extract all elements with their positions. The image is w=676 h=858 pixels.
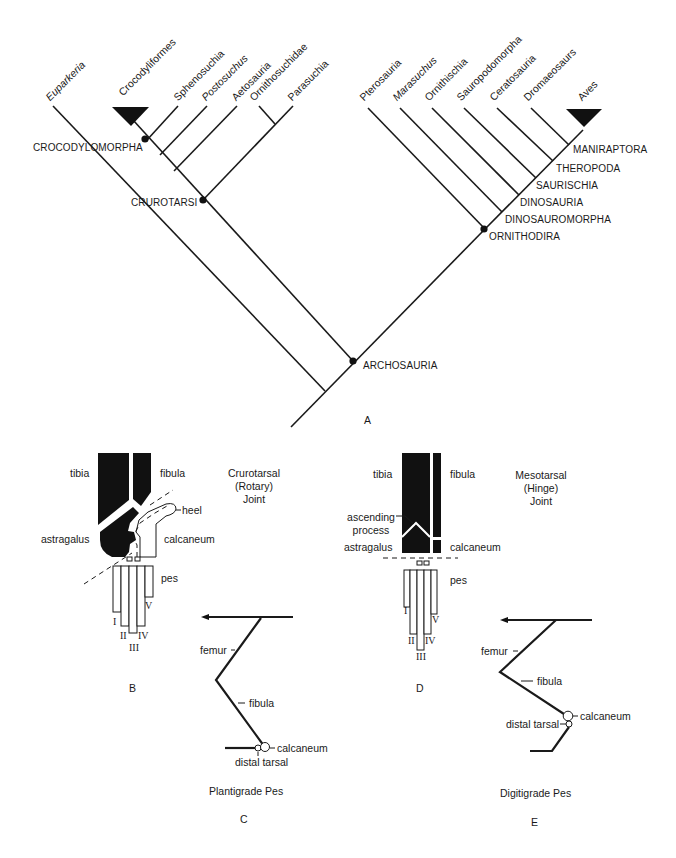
- digit-iii-d: III: [416, 652, 426, 662]
- plantigrade-limb-drawing: [201, 614, 293, 756]
- mesotarsal-ankle-drawing: [383, 453, 458, 650]
- caption-plantigrade-pes: Plantigrade Pes: [209, 786, 283, 797]
- node-archosauria: [349, 357, 356, 364]
- metatarsal-v-d: [431, 570, 437, 614]
- crurotarsal-joint-title: Crurotarsal (Rotary) Joint: [219, 467, 289, 506]
- node-ornithodira: [480, 225, 487, 232]
- clade-archosauria: ARCHOSAURIA: [363, 361, 437, 371]
- calcaneum-bone-d: [433, 540, 441, 553]
- digit-ii-d: II: [408, 636, 415, 646]
- panel-letter-d: D: [416, 683, 424, 694]
- panel-letter-a: A: [364, 415, 371, 426]
- label-fibula-d: fibula: [450, 469, 475, 480]
- digit-iii-b: III: [129, 643, 139, 653]
- label-astragalus-d: astragalus: [344, 542, 392, 553]
- metatarsal-i-d: [404, 570, 410, 607]
- node-crurotarsi: [199, 196, 206, 203]
- digit-iv-b: IV: [138, 631, 149, 641]
- digit-i-d: I: [404, 606, 407, 616]
- metatarsal-v-b: [145, 566, 153, 597]
- label-fibula-e: fibula: [537, 676, 562, 687]
- label-pes-b: pes: [161, 573, 178, 584]
- fibula-bone-d: [433, 453, 441, 537]
- clade-maniraptora: MANIRAPTORA: [573, 145, 647, 155]
- label-tibia-d: tibia: [373, 469, 392, 480]
- clade-theropoda: THEROPODA: [556, 164, 620, 174]
- label-astragalus-b: astragalus: [41, 534, 89, 545]
- label-ascending-process: ascending process: [342, 511, 400, 537]
- label-tibia-b: tibia: [70, 468, 89, 479]
- digit-v-b: V: [145, 601, 152, 611]
- label-fibula-b: fibula: [160, 468, 185, 479]
- label-femur-e: femur: [481, 646, 508, 657]
- clade-crurotarsi: CRUROTARSI: [131, 198, 197, 208]
- digit-v-d: V: [432, 615, 439, 625]
- aves-triangle: [566, 109, 602, 127]
- digit-iv-d: IV: [425, 636, 436, 646]
- label-calcaneum-b: calcaneum: [164, 534, 215, 545]
- metatarsal-iii-d: [417, 570, 424, 650]
- metatarsal-iii-b: [129, 566, 137, 633]
- metatarsal-i-b: [113, 566, 121, 612]
- digit-i-b: I: [113, 617, 116, 627]
- clade-ornithodira: ORNITHODIRA: [489, 232, 560, 242]
- label-heel: heel: [182, 505, 202, 516]
- cladogram-branches: [53, 106, 583, 427]
- label-pes-d: pes: [450, 575, 467, 586]
- clade-dinosauria: DINOSAURIA: [520, 198, 583, 208]
- label-distal-tarsal-c: distal tarsal: [235, 757, 288, 768]
- cladogram-svg: [0, 0, 676, 858]
- tibia-bone-d: [402, 453, 430, 553]
- caption-digitigrade-pes: Digitigrade Pes: [500, 788, 571, 799]
- calcaneum-bone-b: [136, 504, 176, 557]
- metatarsal-ii-b: [121, 566, 129, 626]
- clade-dinosauromorpha: DINOSAUROMORPHA: [505, 215, 611, 225]
- label-calcaneum-d: calcaneum: [450, 542, 501, 553]
- panel-letter-b: B: [129, 683, 136, 694]
- label-fibula-c: fibula: [249, 698, 274, 709]
- fibula-bone-b: [133, 453, 151, 506]
- crocodyliformes-triangle: [112, 107, 149, 126]
- panel-letter-e: E: [531, 817, 538, 828]
- mesotarsal-joint-title: Mesotarsal (Hinge) Joint: [506, 469, 576, 508]
- metatarsal-iv-d: [424, 570, 431, 634]
- clade-crocodylomorpha: CROCODYLOMORPHA: [33, 143, 143, 153]
- metatarsal-iv-b: [137, 566, 145, 626]
- label-calcaneum-c: calcaneum: [277, 743, 328, 754]
- label-femur-c: femur: [200, 645, 227, 656]
- clade-saurischia: SAURISCHIA: [536, 181, 598, 191]
- label-distal-tarsal-e: distal tarsal: [506, 719, 559, 730]
- metatarsal-ii-d: [410, 570, 417, 634]
- panel-letter-c: C: [240, 814, 248, 825]
- label-calcaneum-e: calcaneum: [580, 711, 631, 722]
- digit-ii-b: II: [120, 631, 127, 641]
